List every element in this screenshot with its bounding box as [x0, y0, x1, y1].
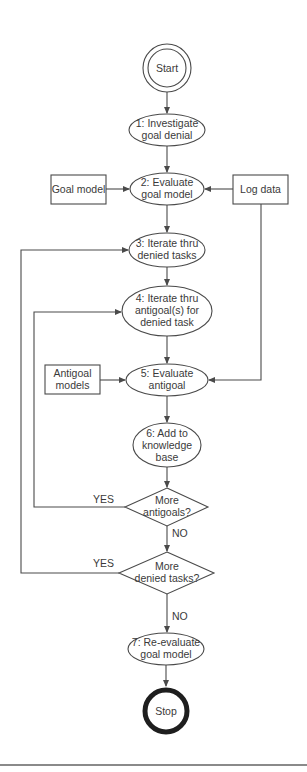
input-log-data: Log data	[233, 175, 288, 204]
step-5: 5: Evaluate antigoal	[126, 364, 208, 396]
flowchart: Start 1: Investigate goal denial Goal mo…	[0, 0, 307, 772]
goal-model-label: Goal model	[52, 183, 106, 195]
arrow-log-data-to-step5	[209, 204, 261, 380]
step-2-line-2: goal model	[141, 188, 192, 200]
start-label: Start	[156, 62, 178, 74]
step-6-line-2: knowledge	[142, 439, 192, 451]
step-4-line-1: 4: Iterate thru	[136, 292, 199, 304]
input-goal-model: Goal model	[51, 175, 106, 204]
antigoal-models-line-1: Antigoal	[54, 367, 92, 379]
start-terminal: Start	[143, 44, 191, 92]
step-6-line-3: base	[156, 451, 179, 463]
arrow-decision2-yes-loop	[21, 250, 128, 573]
step-3-line-1: 3: Iterate thru	[136, 237, 199, 249]
step-1-line-2: goal denial	[142, 129, 193, 141]
arrow-decision1-yes-loop	[34, 312, 125, 507]
decision-more-antigoals: More antigoals? YES NO	[93, 488, 208, 539]
decision-1-line-1: More	[155, 494, 179, 506]
step-1-line-1: 1: Investigate	[136, 117, 199, 129]
decision-2-no-label: NO	[172, 610, 188, 622]
antigoal-models-line-2: models	[56, 379, 90, 391]
step-3: 3: Iterate thru denied tasks	[129, 233, 205, 267]
decision-2-yes-label: YES	[93, 557, 114, 569]
stop-label: Stop	[155, 705, 177, 717]
decision-1-line-2: antigoals?	[143, 506, 191, 518]
step-2-line-1: 2: Evaluate	[141, 176, 194, 188]
log-data-label: Log data	[240, 183, 281, 195]
step-3-line-2: denied tasks	[138, 249, 197, 261]
bottom-divider	[0, 764, 307, 766]
step-7: 7: Re-evaluate goal model	[128, 633, 204, 665]
decision-2-line-2: denied tasks?	[135, 572, 200, 584]
step-6-line-1: 6: Add to	[146, 427, 188, 439]
step-4: 4: Iterate thru antigoal(s) for denied t…	[122, 286, 212, 336]
step-6: 6: Add to knowledge base	[133, 423, 201, 467]
stop-terminal: Stop	[145, 690, 187, 732]
step-5-line-1: 5: Evaluate	[141, 367, 194, 379]
step-4-line-2: antigoal(s) for	[135, 304, 200, 316]
step-7-line-1: 7: Re-evaluate	[132, 636, 200, 648]
step-5-line-2: antigoal	[149, 379, 186, 391]
step-2: 2: Evaluate goal model	[130, 173, 204, 205]
decision-more-denied-tasks: More denied tasks? YES NO	[93, 552, 214, 622]
decision-1-yes-label: YES	[93, 493, 114, 505]
input-antigoal-models: Antigoal models	[45, 365, 100, 394]
step-7-line-2: goal model	[140, 648, 191, 660]
decision-1-no-label: NO	[172, 527, 188, 539]
decision-2-line-1: More	[155, 560, 179, 572]
step-4-line-3: denied task	[140, 316, 194, 328]
step-1: 1: Investigate goal denial	[129, 114, 205, 146]
